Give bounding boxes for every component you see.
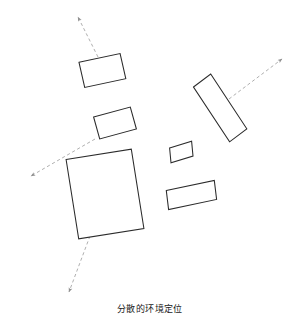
- figure-root: 分散的环境定位: [0, 0, 300, 322]
- scene-canvas: [0, 0, 300, 322]
- figure-caption-text: 分散的环境定位: [117, 303, 183, 315]
- rect-large-bottom-left: [66, 149, 144, 239]
- figure-background: [0, 0, 300, 322]
- figure-caption: 分散的环境定位: [0, 298, 300, 316]
